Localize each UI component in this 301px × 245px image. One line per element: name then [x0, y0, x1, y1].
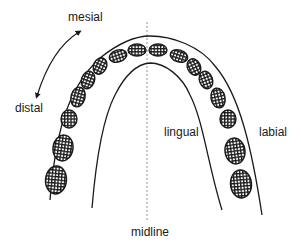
tooth-right-8 [229, 169, 252, 199]
tooth-right-1 [149, 44, 167, 56]
mesial-label: mesial [68, 10, 103, 24]
labial-label: labial [259, 125, 287, 139]
tooth-left-8 [44, 165, 67, 195]
dental-arch-diagram [0, 0, 301, 245]
mesial-distal-arrow [37, 32, 79, 96]
distal-label: distal [15, 101, 43, 115]
midline-label: midline [131, 225, 169, 239]
lingual-label: lingual [164, 125, 199, 139]
tooth-left-6 [61, 110, 77, 128]
tooth-right-6 [220, 110, 236, 128]
tooth-right-7 [223, 137, 246, 166]
tooth-left-1 [128, 44, 146, 56]
tooth-right-5 [209, 87, 227, 109]
tooth-right-2 [169, 48, 190, 65]
